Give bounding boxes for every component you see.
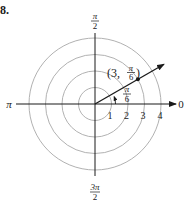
polar-diagram: 8. π 6 (3, π 6 ) 1 2 3 4 0 π π — [0, 0, 187, 208]
svg-text:π: π — [93, 11, 98, 21]
angle-arc-icon — [114, 97, 115, 104]
angle-label-3pi-over-2: 3π 2 — [89, 182, 100, 202]
svg-text:(3,: (3, — [107, 66, 120, 80]
angle-label-0: 0 — [178, 98, 184, 110]
svg-text:6: 6 — [129, 72, 133, 82]
svg-text:): ) — [136, 66, 140, 80]
tick-label-1: 1 — [108, 110, 113, 121]
tick-label-3: 3 — [141, 110, 146, 121]
problem-number: 8. — [0, 3, 9, 17]
svg-text:2: 2 — [93, 21, 98, 31]
svg-text:3π: 3π — [89, 182, 100, 192]
angle-label-pi: π — [6, 98, 12, 110]
tick-label-2: 2 — [124, 110, 129, 121]
svg-text:π: π — [125, 84, 130, 94]
point-label: (3, π 6 ) — [107, 63, 140, 83]
angle-label-pi-over-6: π 6 — [123, 84, 131, 104]
svg-text:2: 2 — [93, 192, 98, 202]
tick-label-4: 4 — [158, 110, 163, 121]
svg-text:6: 6 — [125, 94, 130, 104]
radial-tick-labels: 1 2 3 4 — [108, 110, 163, 121]
svg-text:π: π — [129, 63, 134, 73]
angle-label-pi-over-2: π 2 — [91, 11, 99, 31]
